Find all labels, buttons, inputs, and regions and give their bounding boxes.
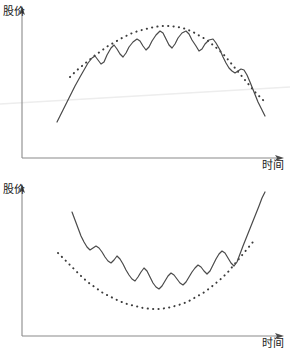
chart-canvas-arc-top [0, 0, 290, 178]
x-axis-label-top: 时间 [262, 160, 284, 172]
y-axis-label-bottom: 股价 [3, 184, 17, 196]
chart-panel-arc-top: 股价 时间 [0, 0, 290, 178]
arc-bottom-envelope-dotted-curve [58, 239, 256, 309]
arc-bottom-price-line [72, 192, 265, 289]
chart-panel-arc-bottom: 股价 时间 [0, 178, 290, 356]
scan-artifact-line [0, 87, 290, 104]
chart-canvas-arc-bottom [0, 178, 290, 356]
arc-top-price-line [57, 31, 265, 122]
figure-caption [0, 348, 290, 356]
stock-price-arc-figure: 股价 时间 股价 时间 [0, 0, 290, 356]
y-axis-label-top: 股价 [3, 6, 17, 18]
